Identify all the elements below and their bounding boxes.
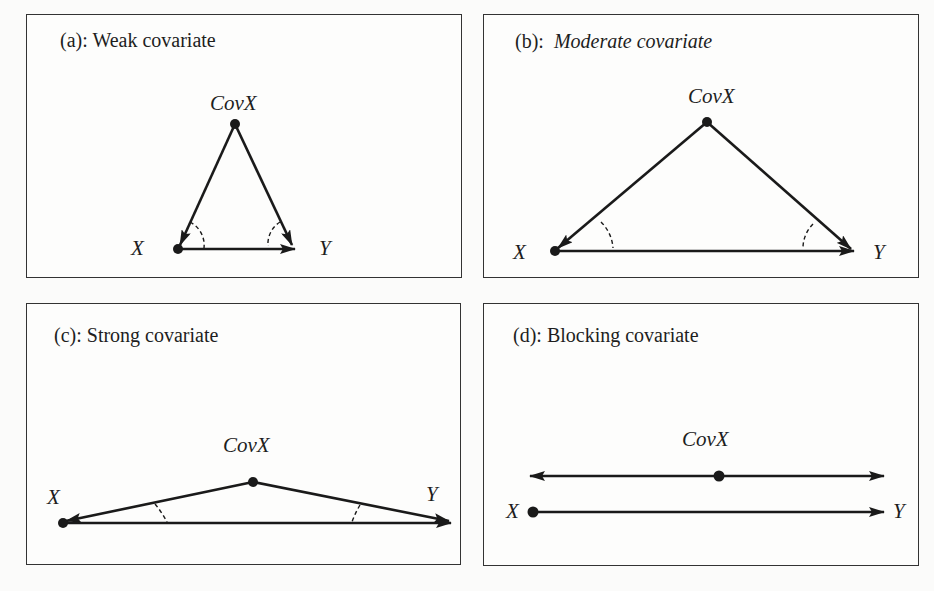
panel-c-x-label: X: [47, 485, 60, 510]
panel-a-prefix: (a):: [60, 29, 88, 51]
panel-c-covx-label: CovX: [223, 433, 270, 458]
panel-a-frame: [26, 14, 462, 278]
panel-a-title: (a): Weak covariate: [60, 29, 216, 52]
panel-d-covx-label: CovX: [682, 427, 729, 452]
panel-d-prefix: (d):: [513, 324, 542, 346]
panel-c-title-text: Strong covariate: [87, 324, 219, 346]
panel-d-x-label: X: [506, 499, 519, 524]
panel-b-prefix: (b):: [515, 30, 544, 52]
panel-d-title-text: Blocking covariate: [547, 324, 699, 346]
panel-b-title-text: Moderate covariate: [554, 30, 712, 52]
panel-c-prefix: (c):: [54, 324, 82, 346]
panel-d-title: (d): Blocking covariate: [513, 324, 699, 347]
panel-a-x-label: X: [131, 236, 144, 261]
panel-c-title: (c): Strong covariate: [54, 324, 218, 347]
panel-b-frame: [483, 14, 919, 278]
panel-b-x-label: X: [513, 240, 526, 265]
panel-d-y-label: Y: [893, 499, 905, 524]
panel-b-y-label: Y: [873, 240, 885, 265]
panel-a-y-label: Y: [319, 236, 331, 261]
panel-a-title-text: Weak covariate: [92, 29, 215, 51]
panel-c-y-label: Y: [426, 482, 438, 507]
panel-a-covx-label: CovX: [210, 91, 257, 116]
panel-b-title: (b): Moderate covariate: [515, 30, 712, 53]
panel-b-covx-label: CovX: [688, 84, 735, 109]
